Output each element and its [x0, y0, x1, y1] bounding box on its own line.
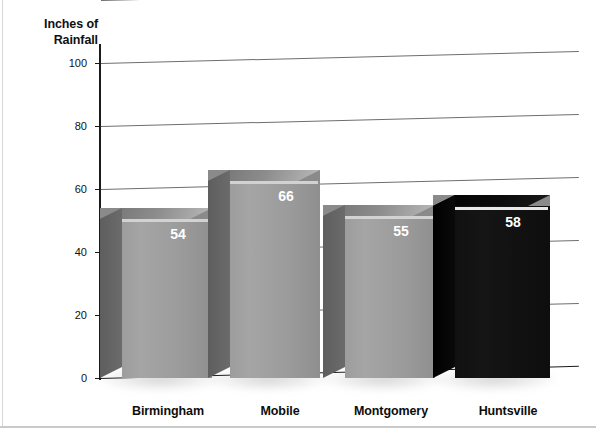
- plot-area: 100 80 60 40 20 0 54: [0, 0, 596, 400]
- bar-front-highlight-mobile: [230, 181, 318, 184]
- bar-side-face-montgomery: [323, 205, 345, 378]
- tick-mark-60: [95, 189, 101, 190]
- bar-side-face-birmingham: [100, 208, 122, 378]
- bar-side-face-mobile: [208, 170, 230, 378]
- gridline-100: [101, 51, 579, 64]
- tick-mark-80: [95, 126, 101, 127]
- rainfall-bar-chart: Inches of Rainfall 100 80 60 40 20 0: [0, 0, 596, 440]
- y-tick-label-100: 100: [53, 58, 87, 69]
- bar-front-highlight-birmingham: [122, 219, 210, 222]
- category-label-montgomery: Montgomery: [330, 404, 452, 418]
- bar-birmingham[interactable]: 54: [122, 208, 212, 378]
- bar-front-face-huntsville: [455, 206, 550, 378]
- gridline-extra: [101, 0, 579, 1]
- category-label-huntsville: Huntsville: [448, 404, 568, 418]
- gridline-80: [101, 114, 579, 127]
- y-tick-label-0: 0: [53, 373, 87, 384]
- bar-front-face-birmingham: [122, 219, 212, 378]
- category-label-mobile: Mobile: [222, 404, 338, 418]
- bar-value-huntsville: 58: [493, 214, 533, 230]
- y-tick-label-20: 20: [53, 310, 87, 321]
- bar-montgomery[interactable]: 55: [345, 205, 435, 378]
- bar-mobile[interactable]: 66: [230, 170, 320, 378]
- bar-front-highlight-montgomery: [345, 216, 433, 219]
- bar-value-montgomery: 55: [381, 223, 421, 239]
- bar-side-face-huntsville: [433, 195, 455, 378]
- bar-front-highlight-huntsville: [455, 207, 548, 210]
- bar-value-mobile: 66: [266, 188, 306, 204]
- tick-mark-100: [95, 63, 101, 64]
- y-tick-label-40: 40: [53, 247, 87, 258]
- page-bottom-margin: [0, 428, 596, 440]
- gridline-60: [101, 177, 579, 190]
- category-label-birmingham: Birmingham: [110, 404, 226, 418]
- bar-huntsville[interactable]: 58: [455, 195, 550, 378]
- bar-value-birmingham: 54: [158, 226, 198, 242]
- y-tick-label-80: 80: [53, 121, 87, 132]
- bar-front-face-montgomery: [345, 216, 435, 378]
- bar-front-face-mobile: [230, 181, 320, 378]
- y-tick-label-60: 60: [53, 184, 87, 195]
